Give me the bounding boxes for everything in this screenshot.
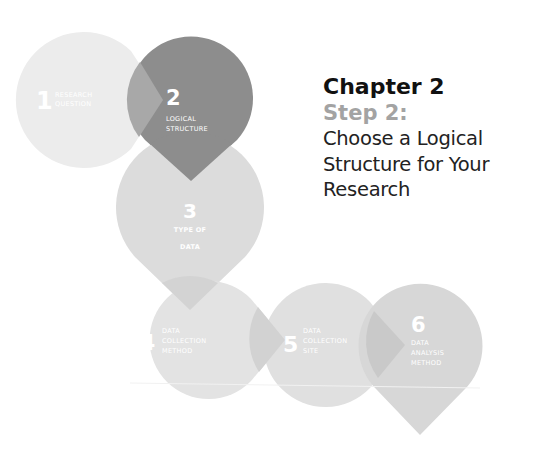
- chapter-heading-block: Chapter 2 Step 2: Choose a Logical Struc…: [323, 74, 535, 203]
- step-description-line-3: Research: [323, 177, 535, 203]
- step-6-label-line-3: METHOD: [411, 359, 442, 367]
- step-4-number: 4: [140, 330, 155, 355]
- step-1-number: 1: [36, 87, 53, 115]
- step-1-label-line-1: RESEARCH: [55, 91, 92, 99]
- step-5-label-line-1: DATA: [303, 327, 321, 335]
- chapter-title: Chapter 2: [323, 74, 535, 100]
- step-3-label-line-1: TYPE OF: [174, 226, 207, 234]
- step-3-label-line-2: DATA: [180, 243, 200, 251]
- step-6-label-line-2: ANALYSIS: [411, 349, 444, 357]
- step-2-number: 2: [166, 86, 181, 110]
- step-5-label-line-2: COLLECTION: [303, 337, 347, 345]
- step-3-number: 3: [183, 199, 197, 223]
- step-5-label-line-3: SITE: [303, 347, 318, 355]
- step-6-data-analysis-method[interactable]: 6 DATA ANALYSIS METHOD: [359, 284, 483, 435]
- step-4-label-line-3: METHOD: [162, 347, 193, 355]
- research-steps-diagram: 1 RESEARCH QUESTION 2 LOGICAL STRUCTURE …: [0, 0, 535, 452]
- step-title: Step 2:: [323, 100, 535, 126]
- step-5-number: 5: [283, 332, 298, 357]
- step-4-label-line-2: COLLECTION: [162, 337, 206, 345]
- step-2-label-line-1: LOGICAL: [166, 115, 196, 123]
- step-6-number: 6: [411, 313, 426, 337]
- step-description-line-2: Structure for Your: [323, 152, 535, 178]
- step-6-label-line-1: DATA: [411, 339, 429, 347]
- step-1-label-line-2: QUESTION: [55, 100, 91, 108]
- step-description-line-1: Choose a Logical: [323, 126, 535, 152]
- step-4-label-line-1: DATA: [162, 327, 180, 335]
